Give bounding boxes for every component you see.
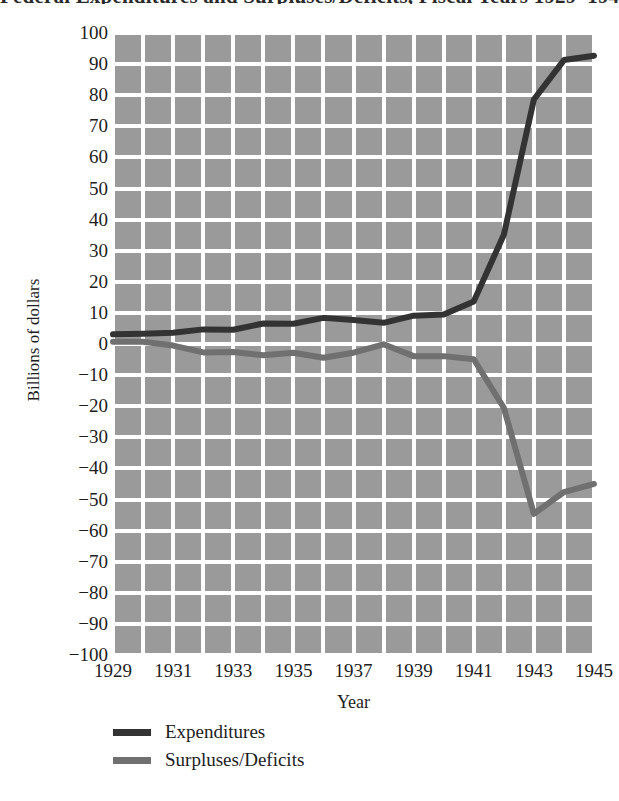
y-axis-title: Billions of dollars bbox=[24, 240, 44, 440]
y-axis-tick-label: 90 bbox=[12, 54, 108, 73]
series-line-surpluses-deficits bbox=[113, 342, 594, 514]
series-line-expenditures bbox=[113, 56, 594, 335]
legend-swatch-icon bbox=[113, 729, 151, 736]
legend-label: Expenditures bbox=[165, 721, 265, 743]
legend-item: Expenditures bbox=[113, 718, 543, 746]
chart-page: Federal Expenditures and Surpluses/Defic… bbox=[0, 0, 619, 801]
y-axis-tick-label: 40 bbox=[12, 210, 108, 229]
legend-label: Surpluses/Deficits bbox=[165, 749, 304, 771]
y-axis-tick-label: 60 bbox=[12, 147, 108, 166]
y-axis-tick-label: 50 bbox=[12, 179, 108, 198]
y-axis-tick-label: −80 bbox=[12, 583, 108, 602]
y-axis-tick-label: −70 bbox=[12, 552, 108, 571]
y-axis-tick-label: −90 bbox=[12, 614, 108, 633]
plot-area bbox=[113, 33, 594, 655]
y-axis-tick-label: −50 bbox=[12, 490, 108, 509]
data-series-layer bbox=[113, 33, 594, 655]
x-axis-tick-label: 1945 bbox=[554, 661, 619, 681]
x-axis-title: Year bbox=[113, 692, 594, 713]
legend-item: Surpluses/Deficits bbox=[113, 746, 543, 774]
y-axis-tick-label: −60 bbox=[12, 521, 108, 540]
chart-legend: ExpendituresSurpluses/Deficits bbox=[113, 718, 543, 774]
y-axis-tick-label: −40 bbox=[12, 458, 108, 477]
y-axis-tick-label: 70 bbox=[12, 116, 108, 135]
y-axis-tick-label: 100 bbox=[12, 23, 108, 42]
legend-swatch-icon bbox=[113, 757, 151, 764]
y-axis-tick-label: 80 bbox=[12, 85, 108, 104]
